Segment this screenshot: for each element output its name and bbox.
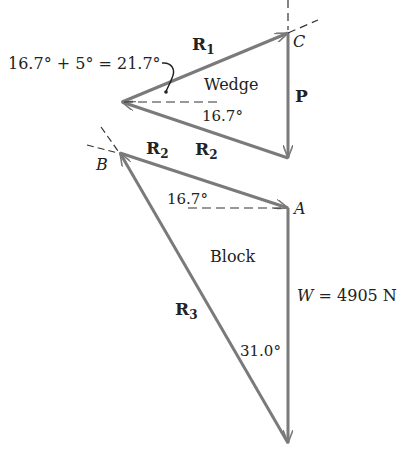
construction-dash-b-2 bbox=[87, 145, 118, 153]
label-p: P bbox=[295, 86, 308, 106]
force-polygon-diagram: 16.7° + 5° = 21.7° R1 C Wedge P 16.7° R2… bbox=[0, 0, 410, 459]
label-block-angle-top: 16.7° bbox=[167, 190, 208, 208]
label-r1: R1 bbox=[192, 34, 215, 57]
label-r2-wedge: R2 bbox=[195, 139, 218, 162]
label-point-c: C bbox=[293, 32, 305, 51]
label-wedge: Wedge bbox=[204, 75, 259, 94]
angle-sum-annotation: 16.7° + 5° = 21.7° bbox=[8, 54, 161, 73]
label-wedge-angle: 16.7° bbox=[202, 107, 243, 125]
angle-leader bbox=[162, 63, 174, 92]
label-block: Block bbox=[210, 247, 255, 266]
construction-dash-b-1 bbox=[101, 127, 118, 151]
label-block-angle-bottom: 31.0° bbox=[240, 342, 281, 360]
label-point-a: A bbox=[292, 199, 306, 218]
label-point-b: B bbox=[95, 155, 108, 174]
label-r2-block: R2 bbox=[146, 138, 169, 161]
label-r3: R3 bbox=[175, 299, 198, 322]
block-polygon bbox=[87, 127, 288, 443]
label-weight: W = 4905 N bbox=[297, 286, 397, 305]
